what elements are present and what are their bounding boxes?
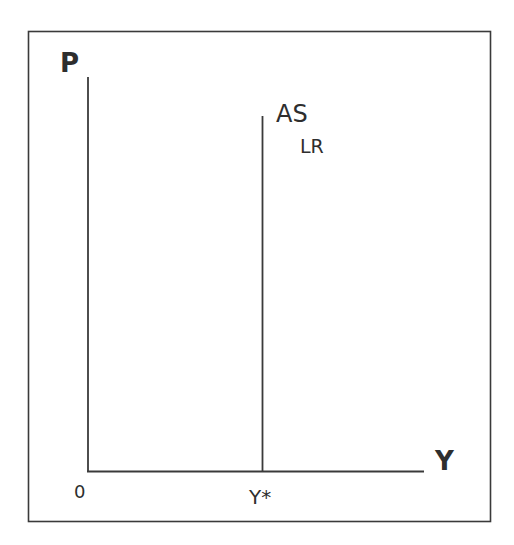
y-axis-label: P — [60, 50, 79, 76]
potential-output-label: Y* — [249, 487, 271, 507]
origin-label: 0 — [74, 483, 85, 501]
as-curve-label: AS — [276, 102, 308, 126]
x-axis-label: Y — [435, 448, 454, 474]
frame-border — [29, 32, 491, 522]
as-curve-subscript: LR — [300, 137, 324, 156]
